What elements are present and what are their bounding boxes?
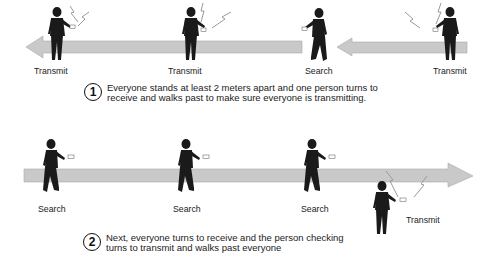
step-2-caption: 2 Next, everyone turns to receive and th… xyxy=(83,233,346,253)
step-2-number-badge: 2 xyxy=(83,233,101,251)
scene1-signal-2 xyxy=(201,3,231,28)
scene2-person-3 xyxy=(304,139,335,192)
scene1-signal-1 xyxy=(70,6,89,26)
diagram-canvas xyxy=(0,0,496,271)
step-1-caption: 1 Everyone stands at least 2 meters apar… xyxy=(84,83,407,103)
scene1-signal-4 xyxy=(405,3,441,28)
scene1-label-4: Transmit xyxy=(433,65,467,76)
step-2-text: Next, everyone turns to receive and the … xyxy=(106,233,346,253)
avalanche-beacon-check-diagram: Transmit Transmit Search Transmit 1 Ever… xyxy=(0,0,496,271)
scene1-arrow-left xyxy=(26,36,302,58)
scene2-label-1: Search xyxy=(38,203,66,214)
scene1-label-1: Transmit xyxy=(34,65,68,76)
step-1-text: Everyone stands at least 2 meters apart … xyxy=(107,83,407,103)
scene2-label-2: Search xyxy=(173,203,201,214)
scene2-person-1 xyxy=(43,139,74,192)
scene1-label-2: Transmit xyxy=(168,65,202,76)
scene1-label-3: Search xyxy=(305,65,333,76)
scene1-person-3 xyxy=(302,8,327,61)
step-1-number-badge: 1 xyxy=(84,83,102,101)
scene2-label-4: Transmit xyxy=(406,214,440,225)
scene2-arrow-right xyxy=(24,163,473,187)
scene2-person-2 xyxy=(178,139,209,192)
scene2-person-4 xyxy=(373,181,406,234)
scene2-label-3: Search xyxy=(301,203,329,214)
